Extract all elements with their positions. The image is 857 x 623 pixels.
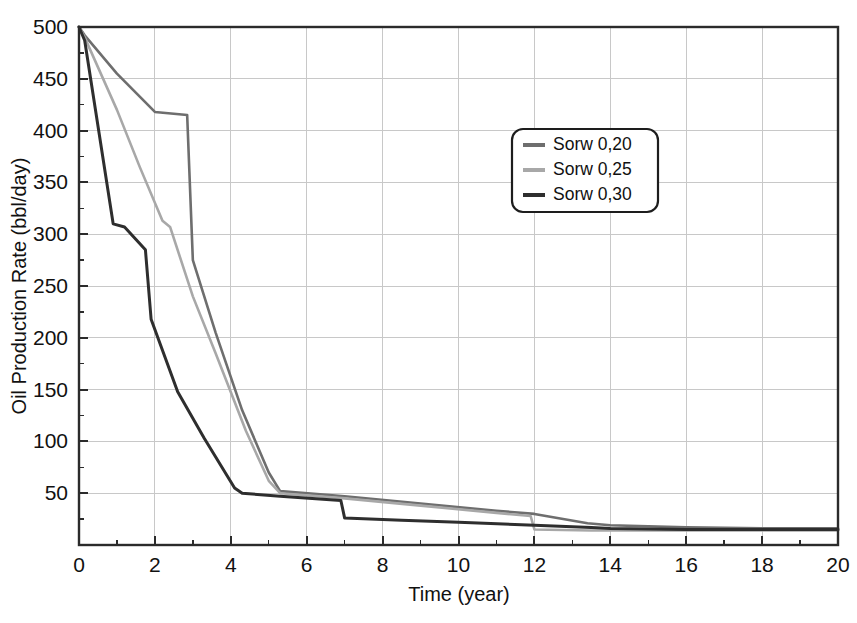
y-tick-label: 300: [33, 222, 68, 245]
legend-items-group: Sorw 0,20Sorw 0,25Sorw 0,30: [523, 134, 632, 204]
y-tick-label: 250: [33, 274, 68, 297]
y-tick-label: 450: [33, 67, 68, 90]
chart-legend: Sorw 0,20Sorw 0,25Sorw 0,30: [512, 129, 658, 212]
x-tick-label: 10: [447, 553, 470, 576]
x-tick-label: 4: [225, 553, 237, 576]
x-tick-label: 12: [523, 553, 546, 576]
x-tick-label: 8: [377, 553, 389, 576]
chart-figure: 02468101214161820 5010015020025030035040…: [0, 0, 857, 623]
x-tick-label: 6: [301, 553, 313, 576]
y-tick-label: 500: [33, 15, 68, 38]
y-tick-label: 100: [33, 429, 68, 452]
x-tick-label: 20: [826, 553, 849, 576]
y-tick-label: 200: [33, 326, 68, 349]
y-tick-label: 150: [33, 378, 68, 401]
legend-label-1: Sorw 0,20: [553, 134, 632, 154]
x-tick-label: 0: [73, 553, 85, 576]
x-axis-title: Time (year): [408, 583, 509, 605]
oil-production-rate-line-chart: 02468101214161820 5010015020025030035040…: [0, 0, 857, 623]
y-tick-label: 350: [33, 170, 68, 193]
x-tick-label: 2: [149, 553, 161, 576]
legend-label-3: Sorw 0,30: [553, 184, 632, 204]
x-tick-label: 18: [750, 553, 773, 576]
y-tick-label: 50: [45, 481, 68, 504]
y-axis-title: Oil Production Rate (bbl/day): [8, 158, 30, 415]
legend-label-2: Sorw 0,25: [553, 159, 632, 179]
x-tick-label: 14: [599, 553, 623, 576]
x-tick-label: 16: [675, 553, 698, 576]
y-tick-label: 400: [33, 119, 68, 142]
